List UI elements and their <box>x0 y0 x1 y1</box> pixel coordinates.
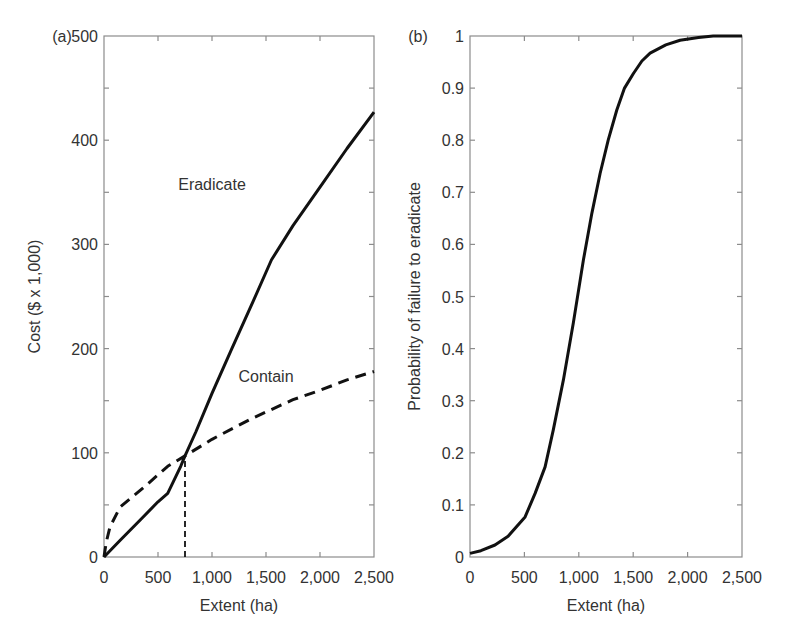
y-tick-label: 0.6 <box>442 236 464 253</box>
x-tick-label: 0 <box>100 569 109 586</box>
plot-frame <box>104 36 374 557</box>
x-tick-label: 2,000 <box>668 569 708 586</box>
y-axis: 00.10.20.30.40.50.60.70.80.91Probability… <box>406 28 742 566</box>
figure: 05001,0001,5002,0002,500Extent (ha)01002… <box>0 0 789 639</box>
x-axis: 05001,0001,5002,0002,500Extent (ha) <box>100 36 395 614</box>
y-tick-label: 0.5 <box>442 289 464 306</box>
x-tick-label: 2,500 <box>722 569 762 586</box>
y-tick-label: 0 <box>455 549 464 566</box>
series-label: Contain <box>238 368 293 385</box>
series-line-probability-of-failure-to-eradicate <box>470 36 742 553</box>
y-tick-label: 0.1 <box>442 497 464 514</box>
y-tick-label: 100 <box>71 445 98 462</box>
x-tick-label: 1,000 <box>559 569 599 586</box>
x-tick-label: 2,000 <box>300 569 340 586</box>
y-tick-label: 0.8 <box>442 132 464 149</box>
y-axis-title: Cost ($ x 1,000) <box>26 240 43 354</box>
x-tick-label: 500 <box>511 569 538 586</box>
x-tick-label: 1,500 <box>246 569 286 586</box>
y-tick-label: 0.9 <box>442 80 464 97</box>
panel-label: (b) <box>408 28 428 45</box>
y-tick-label: 0.7 <box>442 184 464 201</box>
x-tick-label: 0 <box>466 569 475 586</box>
y-tick-label: 300 <box>71 236 98 253</box>
y-tick-label: 400 <box>71 132 98 149</box>
y-tick-label: 0 <box>89 549 98 566</box>
y-tick-label: 0.2 <box>442 445 464 462</box>
panel-a-cost-vs-extent: 05001,0001,5002,0002,500Extent (ha)01002… <box>26 28 394 614</box>
plot-frame <box>470 36 742 557</box>
series-group: EradicateContain <box>104 112 374 557</box>
y-axis-title: Probability of failure to eradicate <box>406 182 423 411</box>
x-tick-label: 2,500 <box>354 569 394 586</box>
x-tick-label: 1,000 <box>192 569 232 586</box>
y-axis: 0100200300400500Cost ($ x 1,000) <box>26 28 374 566</box>
x-axis-title: Extent (ha) <box>200 597 278 614</box>
x-tick-label: 500 <box>145 569 172 586</box>
series-line-contain <box>104 372 374 558</box>
y-tick-label: 200 <box>71 341 98 358</box>
series-group <box>470 36 742 553</box>
chart-canvas: 05001,0001,5002,0002,500Extent (ha)01002… <box>0 0 789 639</box>
panel-b-probability-vs-extent: 05001,0001,5002,0002,500Extent (ha)00.10… <box>406 28 762 614</box>
y-tick-label: 1 <box>455 28 464 45</box>
x-tick-label: 1,500 <box>613 569 653 586</box>
y-tick-label: 0.4 <box>442 341 464 358</box>
x-axis-title: Extent (ha) <box>567 597 645 614</box>
y-tick-label: 0.3 <box>442 393 464 410</box>
series-label: Eradicate <box>178 176 246 193</box>
y-tick-label: 500 <box>71 28 98 45</box>
panel-label: (a) <box>52 28 72 45</box>
